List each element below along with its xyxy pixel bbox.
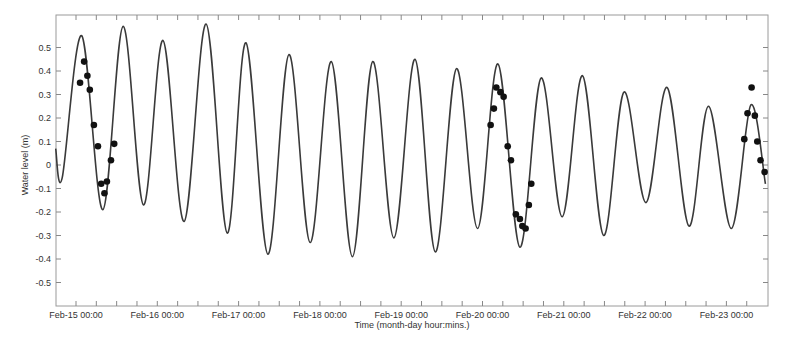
x-tick-label: Feb-22 00:00 bbox=[618, 310, 672, 320]
observed-point bbox=[84, 72, 91, 79]
observed-point bbox=[81, 58, 88, 65]
observed-point bbox=[752, 112, 759, 119]
observed-point bbox=[748, 84, 755, 91]
x-tick-label: Feb-20 00:00 bbox=[456, 310, 510, 320]
observed-point bbox=[517, 216, 524, 223]
observed-point bbox=[108, 157, 115, 164]
observed-point bbox=[528, 181, 535, 188]
y-tick-label: 0 bbox=[46, 160, 51, 170]
x-tick-label: Feb-18 00:00 bbox=[293, 310, 347, 320]
observed-point bbox=[98, 181, 105, 188]
y-tick-label: -0.1 bbox=[35, 184, 51, 194]
y-tick-label: 0.2 bbox=[38, 113, 51, 123]
observed-point bbox=[744, 110, 751, 117]
x-tick-label: Feb-16 00:00 bbox=[131, 310, 185, 320]
y-axis-title: Water level (m) bbox=[20, 135, 30, 196]
observed-point bbox=[741, 136, 748, 143]
y-tick-label: 0.3 bbox=[38, 90, 51, 100]
observed-point bbox=[487, 122, 494, 129]
observed-point bbox=[104, 178, 111, 185]
x-tick-label: Feb-15 00:00 bbox=[49, 310, 103, 320]
observed-point bbox=[500, 94, 507, 101]
y-tick-label: -0.4 bbox=[35, 254, 51, 264]
observed-point bbox=[504, 143, 511, 150]
observed-point bbox=[761, 169, 768, 176]
observed-point bbox=[91, 122, 98, 129]
observed-point bbox=[508, 157, 515, 164]
observed-point bbox=[526, 202, 533, 209]
plot-area bbox=[56, 15, 768, 306]
y-tick-label: -0.2 bbox=[35, 207, 51, 217]
observed-point bbox=[101, 190, 108, 197]
x-tick-label: Feb-17 00:00 bbox=[212, 310, 266, 320]
observed-point bbox=[111, 141, 118, 148]
x-axis-title: Time (month-day hour:mins.) bbox=[354, 320, 469, 330]
observed-point bbox=[77, 79, 84, 86]
x-tick-label: Feb-21 00:00 bbox=[537, 310, 591, 320]
x-tick-label: Feb-19 00:00 bbox=[374, 310, 428, 320]
observed-point bbox=[757, 157, 764, 164]
x-tick-label: Feb-23 00:00 bbox=[700, 310, 754, 320]
observed-point bbox=[95, 143, 102, 150]
y-tick-label: 0.5 bbox=[38, 43, 51, 53]
observed-point bbox=[491, 105, 498, 112]
observed-point bbox=[522, 225, 529, 232]
y-tick-label: -0.5 bbox=[35, 278, 51, 288]
y-tick-label: 0.4 bbox=[38, 66, 51, 76]
observed-point bbox=[87, 87, 94, 94]
water-level-chart: 0.50.40.30.20.10-0.1-0.2-0.3-0.4-0.5 Feb… bbox=[0, 0, 791, 343]
y-tick-label: 0.1 bbox=[38, 137, 51, 147]
y-tick-label: -0.3 bbox=[35, 231, 51, 241]
observed-point bbox=[754, 138, 761, 145]
